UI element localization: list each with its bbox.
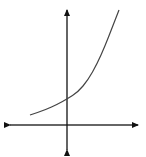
- exponential-curve: [30, 10, 119, 115]
- exponential-graph: [0, 0, 146, 157]
